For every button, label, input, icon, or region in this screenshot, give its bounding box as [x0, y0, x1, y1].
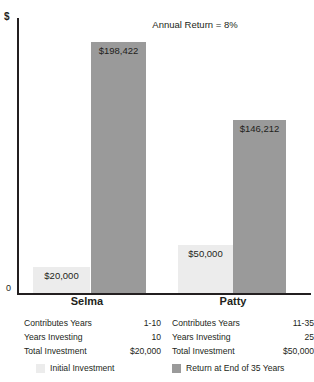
cell-value: $20,000 — [108, 347, 161, 356]
bar-patty-return: $146,212 — [233, 120, 286, 293]
table-row: Contributes Years 1-10 Contributes Years… — [0, 316, 314, 330]
legend-label: Return at End of 35 Years — [186, 364, 284, 373]
cell-label: Contributes Years — [161, 319, 260, 328]
table-rows: Contributes Years 1-10 Contributes Years… — [0, 316, 314, 358]
legend-swatch-icon — [36, 364, 45, 373]
legend-swatch-icon — [172, 364, 181, 373]
legend-item-initial-investment: Initial Investment — [36, 364, 114, 373]
bars-layer: $20,000 $198,422 $50,000 $146,212 — [0, 18, 314, 293]
chart-legend: Initial Investment Return at End of 35 Y… — [0, 364, 314, 378]
legend-label: Initial Investment — [50, 364, 114, 373]
group-name-patty: Patty — [168, 296, 298, 307]
summary-table: Selma Patty Contributes Years 1-10 Contr… — [0, 296, 314, 358]
x-axis-line — [17, 293, 311, 295]
cell-value: 10 — [108, 333, 161, 342]
cell-value: 11-35 — [260, 319, 314, 328]
cell-label: Contributes Years — [0, 319, 108, 328]
table-row: Years Investing 10 Years Investing 25 — [0, 330, 314, 344]
bar-label-patty-return: $146,212 — [233, 124, 286, 134]
bar-selma-initial-investment: $20,000 — [33, 267, 90, 293]
group-name-row: Selma Patty — [0, 296, 314, 312]
group-name-selma: Selma — [22, 296, 152, 307]
bar-patty-initial-investment: $50,000 — [178, 245, 233, 293]
legend-item-return: Return at End of 35 Years — [172, 364, 284, 373]
bar-selma-return: $198,422 — [91, 42, 146, 293]
cell-label: Total Investment — [161, 347, 260, 356]
cell-value: 25 — [260, 333, 314, 342]
cell-label: Years Investing — [0, 333, 108, 342]
investment-comparison-chart: $ 0 Annual Return = 8% $20,000 $198,422 … — [0, 0, 314, 382]
cell-label: Total Investment — [0, 347, 108, 356]
bar-label-selma-initial: $20,000 — [33, 271, 90, 281]
cell-value: 1-10 — [108, 319, 161, 328]
cell-value: $50,000 — [260, 347, 314, 356]
table-row: Total Investment $20,000 Total Investmen… — [0, 344, 314, 358]
bar-label-selma-return: $198,422 — [91, 46, 146, 56]
cell-label: Years Investing — [161, 333, 260, 342]
plot-area: $ 0 Annual Return = 8% $20,000 $198,422 … — [0, 8, 314, 293]
bar-label-patty-initial: $50,000 — [178, 249, 233, 259]
